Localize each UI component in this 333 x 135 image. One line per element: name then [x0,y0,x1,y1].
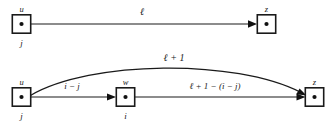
node-u-bottom-label: u [19,77,23,87]
node-z-top-label: z [264,4,269,14]
node-u-bottom-index: j [19,111,23,121]
node-z-top: z [257,4,275,33]
node-u-top-index: j [19,38,23,48]
diagram-root: ℓ u j z ℓ + 1 i − j [0,0,333,135]
edge-u-z-curve-label: ℓ + 1 [164,52,185,63]
edge-u-w-arrowhead [107,93,116,100]
node-z-top-dot [264,22,268,26]
top-panel: ℓ u j z [12,4,275,48]
node-z-bottom-label: z [312,77,317,87]
edge-u-w-label: i − j [64,81,80,91]
node-u-bottom-dot [19,95,23,99]
node-u-bottom: u j [12,77,30,121]
node-w-bottom-dot [123,95,127,99]
node-z-bottom-dot [312,95,316,99]
node-u-top-dot [19,22,23,26]
edge-u-z-top-label: ℓ [140,6,144,17]
node-w-bottom-label: w [123,77,129,87]
edge-w-z-label: ℓ + 1 − (i − j) [190,81,241,91]
diagram-canvas: ℓ u j z ℓ + 1 i − j [0,0,333,135]
edge-u-z-top-arrowhead [248,20,257,27]
node-z-bottom: z [305,77,323,106]
node-u-top-label: u [19,4,23,14]
node-u-top: u j [12,4,30,48]
node-w-bottom-index: i [124,111,127,121]
node-w-bottom: w i [116,77,134,121]
bottom-panel: ℓ + 1 i − j ℓ + 1 − (i − j) u j w i [12,52,323,121]
